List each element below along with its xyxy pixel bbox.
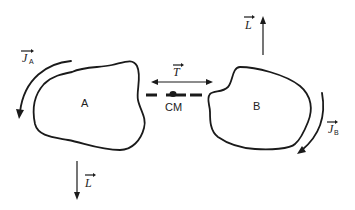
svg-text:L: L — [84, 176, 92, 190]
l-down-label: L — [84, 173, 96, 190]
l-up-label: L — [244, 15, 255, 32]
j-a-arrowhead-icon — [16, 109, 24, 119]
body-a-label: A — [81, 97, 89, 109]
l-up-arrowhead-icon — [260, 16, 266, 24]
body-b-label: B — [253, 100, 260, 112]
cm-label: CM — [165, 101, 182, 113]
body-a-outline — [34, 61, 145, 150]
j-a-arc-arrow — [20, 61, 71, 112]
svg-text:A: A — [29, 58, 34, 65]
j-b-arc-arrow — [302, 93, 323, 150]
svg-text:B: B — [334, 129, 339, 136]
binary-body-diagram: A J A T CM B L J B — [0, 0, 355, 210]
t-label: T — [173, 63, 184, 79]
svg-text:T: T — [173, 65, 181, 79]
t-left-arrowhead-icon — [151, 79, 158, 85]
j-b-label: J B — [327, 120, 339, 136]
svg-text:L: L — [244, 18, 252, 32]
svg-text:J: J — [22, 51, 28, 65]
cm-dot-icon — [170, 91, 177, 97]
t-right-arrowhead-icon — [206, 79, 213, 85]
l-down-arrowhead-icon — [74, 192, 80, 200]
j-a-label: J A — [21, 49, 34, 65]
